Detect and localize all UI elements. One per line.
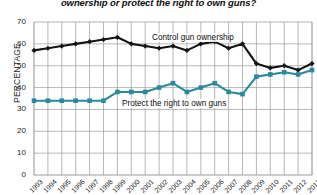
y-tick-0: 0 [4, 170, 26, 179]
series-label-control-gun-ownership: Control gun ownership [151, 33, 235, 42]
plot-area [0, 0, 317, 195]
y-tick-70: 70 [4, 17, 26, 26]
chart-title: ownership or protect the right to own gu… [0, 0, 317, 8]
y-tick-20: 20 [4, 126, 26, 135]
y-tick-40: 40 [4, 83, 26, 92]
y-tick-10: 10 [4, 148, 26, 157]
gun-policy-line-chart: ownership or protect the right to own gu… [0, 0, 317, 195]
series-label-protect-right-to-own-guns: Protect the right to own guns [121, 99, 227, 108]
y-tick-60: 60 [4, 39, 26, 48]
y-tick-50: 50 [4, 61, 26, 70]
y-tick-30: 30 [4, 104, 26, 113]
y-axis-title: PERCENTAGE [12, 8, 22, 138]
